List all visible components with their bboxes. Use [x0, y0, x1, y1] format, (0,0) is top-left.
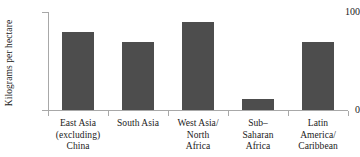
x-category-label: West Asia/NorthAfrica — [168, 118, 228, 153]
y-axis-title: Kilograms per hectare — [2, 8, 16, 118]
x-category-label-line: Saharan — [228, 130, 288, 142]
x-category-label-line: China — [48, 141, 108, 153]
x-category-label: LatinAmerica/Caribbean — [288, 118, 348, 153]
x-tick-mark — [228, 111, 229, 116]
x-category-label-line: America/ — [288, 130, 348, 142]
x-tick-mark — [348, 111, 349, 116]
x-tick-mark — [108, 111, 109, 116]
x-category-label-line: East Asia — [48, 118, 108, 130]
plot-area — [48, 12, 348, 110]
x-tick-mark — [168, 111, 169, 116]
bar — [182, 22, 214, 110]
x-axis-line — [42, 110, 348, 111]
bar — [62, 32, 94, 110]
x-category-label-line: Sub– — [228, 118, 288, 130]
x-category-label: South Asia — [108, 118, 168, 130]
x-tick-mark — [288, 111, 289, 116]
x-category-label-line: Latin — [288, 118, 348, 130]
bar-chart: Kilograms per hectare 0100 East Asia(exc… — [0, 0, 360, 157]
x-category-label: Sub–SaharanAfrica — [228, 118, 288, 153]
x-category-label-line: South Asia — [108, 118, 168, 130]
x-category-label: East Asia(excluding)China — [48, 118, 108, 153]
bar — [242, 99, 274, 110]
x-category-label-line: Africa — [228, 141, 288, 153]
bar — [122, 42, 154, 110]
x-tick-mark — [48, 111, 49, 116]
x-category-label-line: West Asia/ — [168, 118, 228, 130]
x-category-label-line: (excluding) — [48, 130, 108, 142]
x-category-label-line: North — [168, 130, 228, 142]
x-category-label-line: Caribbean — [288, 141, 348, 153]
bar — [302, 42, 334, 110]
x-category-label-line: Africa — [168, 141, 228, 153]
